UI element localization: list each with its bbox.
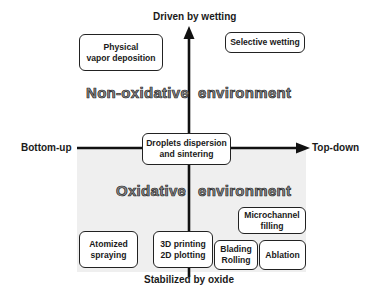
- box-droplets-dispersion-sintering: Droplets dispersion and sintering: [142, 133, 231, 165]
- box-blading-line1: Blading: [220, 244, 252, 255]
- box-blading-line2: Rolling: [221, 255, 250, 266]
- region-label-non-oxidative: Non-oxidative: [86, 84, 189, 101]
- up-arrow-icon: [184, 26, 195, 39]
- region-label-environment-upper: environment: [198, 84, 291, 101]
- box-microchannel-filling: Microchannel filling: [238, 207, 306, 234]
- box-pvd-line2: vapor deposition: [86, 53, 155, 64]
- box-atomized-line1: Atomized: [89, 239, 128, 250]
- box-ablation-line1: Ablation: [265, 250, 299, 261]
- right-arrow-icon: [296, 143, 310, 154]
- box-3d-printing-2d-plotting: 3D printing 2D plotting: [153, 231, 213, 268]
- box-atomized-line2: spraying: [91, 250, 127, 261]
- box-printing-line2: 2D plotting: [161, 250, 206, 261]
- box-printing-line1: 3D printing: [160, 239, 205, 250]
- box-blading-rolling: Blading Rolling: [214, 240, 258, 270]
- region-label-oxidative: Oxidative: [116, 182, 186, 199]
- axis-label-left: Bottom-up: [21, 142, 72, 153]
- axis-label-top: Driven by wetting: [153, 11, 236, 22]
- box-pvd-line1: Physical: [104, 42, 139, 53]
- box-droplets-line1: Droplets dispersion: [146, 138, 227, 149]
- box-physical-vapor-deposition: Physical vapor deposition: [79, 34, 163, 71]
- box-droplets-line2: and sintering: [160, 149, 214, 160]
- axis-label-bottom: Stabilized by oxide: [144, 274, 234, 285]
- axis-label-right: Top-down: [312, 142, 359, 153]
- box-microchannel-line1: Microchannel: [244, 210, 299, 221]
- box-selective-wetting: Selective wetting: [225, 32, 305, 53]
- box-ablation: Ablation: [259, 240, 306, 270]
- box-selective-wetting-line1: Selective wetting: [230, 37, 300, 48]
- box-microchannel-line2: filling: [261, 221, 284, 232]
- region-label-environment-lower: environment: [198, 182, 291, 199]
- box-atomized-spraying: Atomized spraying: [79, 231, 138, 268]
